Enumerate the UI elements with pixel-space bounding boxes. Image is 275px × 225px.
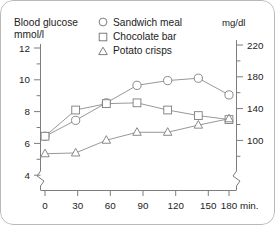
x-tick-label-3: 90	[138, 200, 149, 211]
x-tick-label-5: 150	[200, 200, 217, 211]
x-tick-label-1: 30	[72, 200, 83, 211]
left-tick-label-3: 6	[25, 138, 31, 149]
left-tick-label-2: 8	[25, 106, 31, 117]
left-tick-label-0: 12	[19, 43, 30, 54]
data-point-triangle-icon	[41, 149, 49, 157]
data-point-circle-icon	[72, 116, 80, 124]
left-tick-label-1: 10	[19, 74, 30, 85]
chart-card: Blood glucose mmol/l mg/dl Sandwich meal…	[0, 0, 275, 225]
data-point-square-icon	[72, 106, 80, 114]
data-point-square-icon	[133, 99, 141, 107]
data-point-triangle-icon	[133, 128, 141, 136]
x-axis-unit-label: min.	[240, 200, 259, 211]
data-point-square-icon	[41, 132, 49, 140]
legend-item-sandwich-meal: Sandwich meal	[99, 17, 182, 28]
square-icon	[99, 33, 107, 41]
data-point-circle-icon	[194, 74, 202, 82]
blood-glucose-chart: Blood glucose mmol/l mg/dl Sandwich meal…	[0, 0, 275, 225]
chart-title-line2: mmol/l	[14, 29, 44, 40]
legend: Sandwich meal Chocolate bar Potato crisp…	[99, 17, 182, 56]
right-tick-label-3: 100	[247, 135, 264, 146]
legend-item-potato-crisps: Potato crisps	[99, 45, 172, 56]
x-axis: 0 30 60 90 120 150 180 min.	[41, 191, 259, 212]
legend-label-0: Sandwich meal	[113, 17, 182, 28]
data-point-circle-icon	[225, 91, 233, 99]
series-line	[45, 119, 229, 154]
circle-icon	[99, 18, 107, 26]
series-potato-crisps	[41, 114, 233, 157]
x-tick-label-0: 0	[42, 200, 48, 211]
x-tick-label-2: 60	[105, 200, 116, 211]
data-point-square-icon	[164, 106, 172, 114]
chart-title-line1: Blood glucose	[14, 17, 78, 28]
data-point-circle-icon	[164, 76, 172, 84]
right-tick-label-2: 140	[247, 103, 264, 114]
right-axis: 220 180 140 100	[233, 40, 264, 190]
data-point-square-icon	[194, 112, 202, 120]
legend-label-1: Chocolate bar	[113, 31, 177, 42]
x-tick-label-4: 120	[168, 200, 185, 211]
right-tick-label-1: 180	[247, 71, 264, 82]
triangle-icon	[99, 47, 108, 54]
data-point-square-icon	[102, 100, 110, 108]
right-axis-unit-label: mg/dl	[222, 17, 245, 28]
data-point-circle-icon	[133, 81, 141, 89]
left-tick-label-4: 4	[25, 170, 31, 181]
legend-item-chocolate-bar: Chocolate bar	[99, 31, 177, 42]
right-tick-label-0: 220	[247, 40, 264, 51]
x-tick-label-6: 180	[221, 200, 238, 211]
left-axis: 12 10 8 6 4	[19, 43, 44, 190]
data-series-layer	[41, 74, 233, 157]
legend-label-2: Potato crisps	[113, 45, 172, 56]
